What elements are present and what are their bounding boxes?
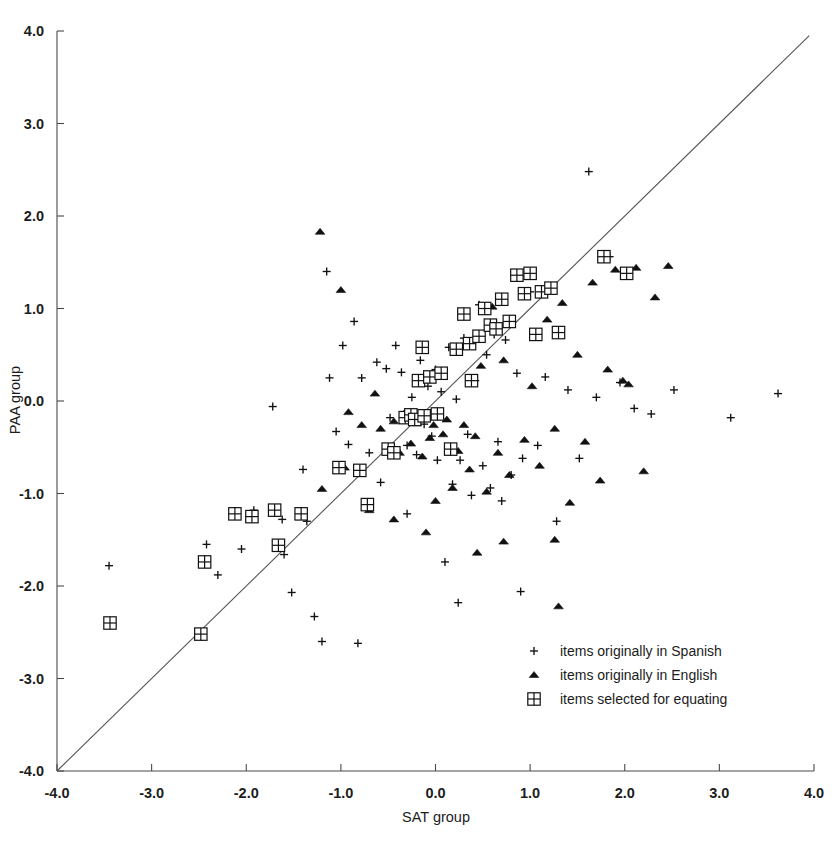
point-marker-plus: [416, 356, 424, 364]
y-tick-label: -3.0: [19, 671, 44, 687]
point-marker-square-cross: [511, 269, 523, 281]
point-marker-plus: [408, 393, 416, 401]
x-tick-label: 3.0: [709, 785, 729, 801]
point-marker-triangle: [336, 287, 346, 293]
point-marker-square-cross: [503, 315, 515, 327]
point-marker-triangle: [448, 484, 458, 490]
identity-reference-line: [57, 36, 809, 771]
point-marker-triangle: [493, 449, 503, 455]
point-marker-plus: [318, 638, 326, 646]
x-tick-label: -3.0: [139, 785, 164, 801]
point-marker-plus: [433, 456, 441, 464]
point-marker-triangle: [431, 497, 441, 503]
point-marker-plus: [553, 517, 561, 525]
point-marker-square-cross: [479, 302, 491, 314]
point-marker-triangle: [317, 485, 327, 491]
legend: items originally in Spanishitems origina…: [528, 643, 728, 707]
point-marker-triangle: [603, 366, 613, 372]
point-marker-square-cross: [246, 510, 258, 522]
plot-canvas: -4.0-3.0-2.0-1.00.01.02.03.04.0-4.0-3.0-…: [0, 0, 839, 845]
legend-entry-0: items originally in Spanish: [530, 643, 722, 659]
y-tick-label: 3.0: [24, 116, 44, 132]
point-marker-plus: [541, 373, 549, 381]
point-marker-triangle: [425, 435, 435, 441]
point-marker-triangle: [565, 499, 575, 505]
point-marker-plus: [323, 268, 331, 276]
point-marker-triangle: [650, 294, 660, 300]
point-marker-plus: [299, 465, 307, 473]
y-tick-label: 2.0: [24, 208, 44, 224]
point-marker-triangle: [557, 299, 567, 305]
point-marker-plus: [774, 390, 782, 398]
point-marker-triangle: [438, 431, 448, 437]
point-marker-triangle-legend: [529, 672, 539, 678]
point-marker-square-cross: [104, 617, 116, 629]
point-marker-square-cross: [354, 464, 366, 476]
point-marker-triangle: [588, 279, 598, 285]
point-marker-triangle: [470, 433, 480, 439]
y-tick-label: -2.0: [19, 578, 44, 594]
y-tick-label: -4.0: [19, 763, 44, 779]
series-2: [104, 251, 633, 641]
point-marker-triangle: [459, 422, 469, 428]
point-marker-plus: [630, 404, 638, 412]
point-marker-plus-legend: [530, 647, 538, 655]
data-points: [104, 168, 782, 648]
point-marker-plus: [397, 368, 405, 376]
point-marker-square-cross: [229, 508, 241, 520]
point-marker-square-cross: [545, 282, 557, 294]
point-marker-triangle: [663, 262, 673, 268]
point-marker-plus: [467, 491, 475, 499]
point-marker-plus: [519, 454, 527, 462]
point-marker-plus: [670, 386, 678, 394]
x-tick-label: -1.0: [328, 785, 353, 801]
point-marker-plus: [454, 599, 462, 607]
point-marker-triangle: [554, 603, 564, 609]
legend-label: items selected for equating: [560, 691, 727, 707]
point-marker-square-cross: [490, 323, 502, 335]
point-marker-square-cross: [295, 508, 307, 520]
y-tick-label: 1.0: [24, 301, 44, 317]
y-axis-title: PAA group: [7, 366, 23, 434]
point-marker-square-cross: [530, 328, 542, 340]
point-marker-triangle: [472, 549, 482, 555]
point-marker-triangle: [520, 436, 530, 442]
point-marker-triangle: [315, 228, 325, 234]
point-marker-plus: [564, 386, 572, 394]
point-marker-square-cross: [195, 628, 207, 640]
point-marker-square-cross: [361, 498, 373, 510]
point-marker-square-cross: [444, 443, 456, 455]
legend-entry-2: items selected for equating: [528, 691, 728, 707]
point-marker-plus: [377, 478, 385, 486]
legend-label: items originally in Spanish: [560, 643, 722, 659]
point-marker-triangle: [465, 466, 475, 472]
y-tick-label: 0.0: [24, 393, 44, 409]
point-marker-square-cross: [620, 267, 632, 279]
point-marker-plus: [437, 388, 445, 396]
point-marker-square-cross-legend: [528, 693, 540, 705]
point-marker-triangle: [580, 438, 590, 444]
point-marker-plus: [269, 403, 277, 411]
point-marker-plus: [727, 414, 735, 422]
point-marker-triangle: [595, 477, 605, 483]
x-tick-label: 0.0: [425, 785, 445, 801]
point-marker-triangle: [389, 516, 399, 522]
point-marker-plus: [403, 510, 411, 518]
point-marker-triangle: [542, 316, 552, 322]
point-marker-plus: [238, 545, 246, 553]
point-marker-square-cross: [465, 374, 477, 386]
point-marker-plus: [326, 374, 334, 382]
x-tick-label: 1.0: [520, 785, 540, 801]
point-marker-plus: [585, 168, 593, 176]
point-marker-square-cross: [412, 374, 424, 386]
point-marker-plus: [354, 639, 362, 647]
point-marker-square-cross: [268, 504, 280, 516]
x-tick-label: 4.0: [804, 785, 824, 801]
point-marker-plus: [575, 454, 583, 462]
x-tick-label: -4.0: [45, 785, 70, 801]
x-tick-label: -2.0: [234, 785, 259, 801]
point-marker-triangle: [527, 383, 537, 389]
legend-entry-1: items originally in English: [529, 667, 717, 683]
point-marker-plus: [498, 497, 506, 505]
point-marker-plus: [534, 441, 542, 449]
